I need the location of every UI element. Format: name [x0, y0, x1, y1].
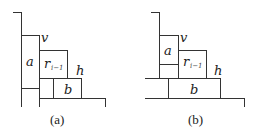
panel-a: a v r i−1 h b (a) [13, 13, 106, 128]
panel-a-label-b: b [64, 82, 72, 97]
panel-b-caption: (b) [188, 112, 203, 127]
panel-b: a v r i−1 h b (b) [145, 13, 245, 128]
panel-a-caption: (a) [50, 112, 64, 127]
panel-b-label-h: h [214, 63, 222, 78]
panel-a-label-a: a [26, 54, 34, 69]
panel-a-label-v: v [41, 30, 49, 45]
panel-a-label-h: h [76, 63, 84, 78]
panel-b-label-r: r [183, 54, 190, 69]
figure: a v r i−1 h b (a) a v r i−1 h b (b) [0, 0, 256, 134]
panel-b-label-b: b [190, 82, 198, 97]
panel-b-label-a: a [164, 43, 172, 58]
panel-b-label-v: v [180, 30, 188, 45]
panel-a-label-r: r [44, 56, 51, 71]
panel-b-label-r-sub: i−1 [190, 62, 203, 70]
panel-a-label-r-sub: i−1 [51, 64, 64, 72]
